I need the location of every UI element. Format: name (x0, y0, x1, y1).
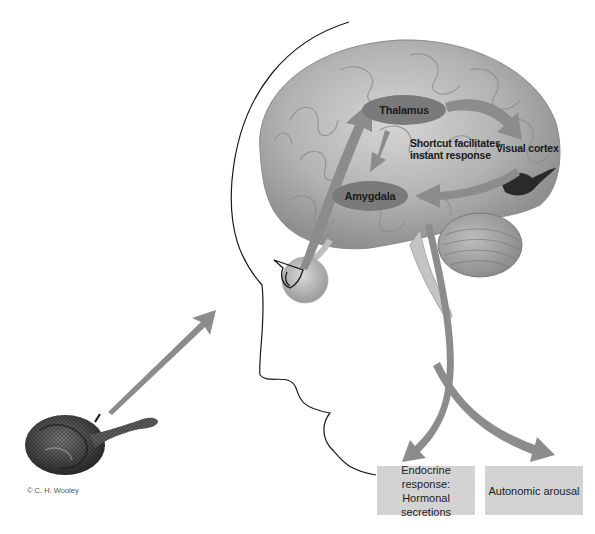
autonomic-label: Autonomic arousal (488, 484, 579, 498)
amygdala-label: Amygdala (336, 190, 404, 202)
eye (274, 240, 330, 303)
endocrine-response-box: Endocrine response: Hormonal secretions (377, 466, 475, 515)
shortcut-label: Shortcut facilitates instant response (410, 137, 501, 161)
autonomic-arousal-box: Autonomic arousal (485, 466, 583, 515)
image-credit: © C. H. Wooley (27, 486, 79, 495)
endocrine-line2: Hormonal secretions (377, 491, 475, 519)
shortcut-label-line2: instant response (410, 149, 501, 161)
stimulus-arrow (108, 310, 216, 415)
thalamus-label: Thalamus (372, 104, 436, 116)
diagram-canvas: Thalamus Amygdala Visual cortex Shortcut… (0, 0, 595, 534)
shortcut-label-line1: Shortcut facilitates (410, 137, 501, 149)
diagram-graphic (0, 0, 595, 534)
visual-cortex-label: Visual cortex (496, 142, 559, 154)
endocrine-line1: Endocrine response: (377, 463, 475, 491)
snake-illustration (25, 414, 158, 475)
